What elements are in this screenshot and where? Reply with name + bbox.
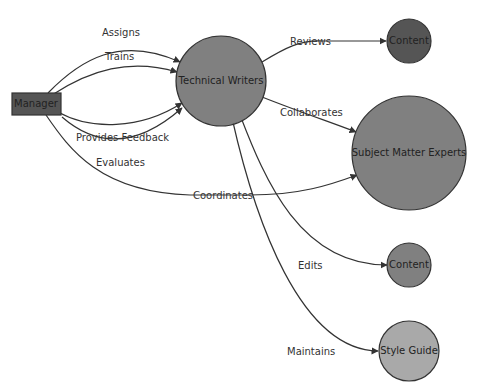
edge-provides-feedback-1 [58, 103, 182, 125]
node-style-guide-label: Style Guide [380, 345, 438, 356]
diagram-canvas: Assigns Trains Provides Feedback Evaluat… [0, 0, 480, 392]
label-trains: Trains [104, 51, 134, 62]
label-provides-feedback: Provides Feedback [76, 132, 169, 143]
label-maintains: Maintains [287, 346, 335, 357]
node-content-bottom[interactable]: Content [387, 243, 431, 287]
node-style-guide[interactable]: Style Guide [379, 321, 439, 381]
node-technical-writers[interactable]: Technical Writers [176, 36, 266, 126]
node-manager-label: Manager [14, 98, 59, 109]
node-technical-writers-label: Technical Writers [178, 75, 264, 86]
label-coordinates: Coordinates [193, 190, 253, 201]
node-manager[interactable]: Manager [12, 93, 61, 115]
edge-evaluates [46, 115, 190, 195]
label-reviews: Reviews [290, 36, 331, 47]
node-subject-matter-experts-label: Subject Matter Experts [352, 147, 467, 158]
node-content-top[interactable]: Content [387, 19, 431, 63]
label-assigns: Assigns [102, 27, 140, 38]
label-evaluates: Evaluates [96, 157, 145, 168]
label-collaborates: Collaborates [280, 107, 343, 118]
label-edits: Edits [298, 260, 323, 271]
node-content-top-label: Content [389, 35, 429, 46]
node-subject-matter-experts[interactable]: Subject Matter Experts [352, 96, 467, 210]
node-content-bottom-label: Content [389, 259, 429, 270]
edge-trains [52, 66, 177, 95]
